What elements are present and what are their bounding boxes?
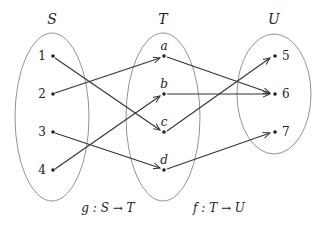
elem-5: 5	[282, 49, 290, 63]
elem-b: b	[160, 77, 168, 91]
diagram-canvas: S T U 1 2 3 4 a b c d 5 6 7 g : S → T	[0, 0, 329, 225]
arrow-d-7	[167, 133, 270, 169]
arrow-2-a	[55, 58, 160, 93]
mapping-f	[167, 57, 270, 169]
elem-c: c	[161, 115, 168, 129]
elem-7: 7	[282, 125, 290, 139]
elem-4: 4	[38, 163, 46, 177]
caption-f: f : T → U	[192, 201, 246, 215]
set-S-ellipse	[15, 33, 89, 201]
arrow-3-d	[55, 133, 160, 168]
arrow-4-b	[55, 96, 160, 169]
elem-3: 3	[38, 125, 46, 139]
elem-6: 6	[282, 87, 290, 101]
function-composition-diagram: S T U 1 2 3 4 a b c d 5 6 7 g : S → T	[0, 0, 329, 225]
caption-g: g : S → T	[81, 201, 135, 215]
elem-1: 1	[38, 49, 46, 63]
set-label-U: U	[268, 11, 281, 27]
arrow-a-6	[167, 57, 270, 93]
set-label-S: S	[47, 11, 57, 27]
mapping-g	[55, 58, 160, 169]
arrow-1-c	[55, 58, 160, 130]
elem-2: 2	[38, 87, 46, 101]
elem-a: a	[160, 39, 167, 53]
elem-d: d	[160, 153, 168, 167]
set-label-T: T	[158, 11, 169, 27]
